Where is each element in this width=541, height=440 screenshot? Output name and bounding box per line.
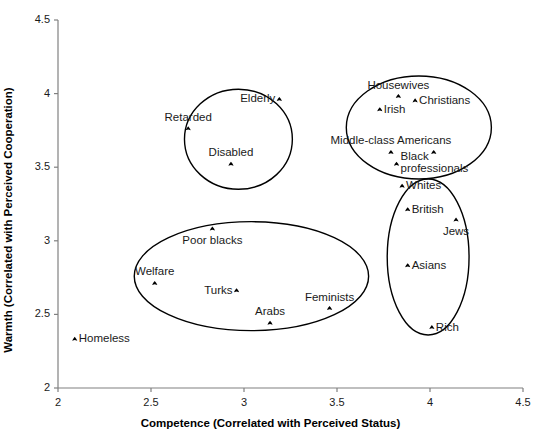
data-point-label: Welfare <box>55 265 255 277</box>
y-tick-label: 3 <box>10 235 50 246</box>
data-point-marker <box>228 162 233 166</box>
data-point-label: Homeless <box>79 332 279 344</box>
y-tick-label: 4.5 <box>10 14 50 25</box>
data-point-marker <box>394 162 399 166</box>
x-tick-label: 4.5 <box>498 397 541 408</box>
data-point-marker <box>453 218 458 222</box>
data-point-marker <box>267 321 272 325</box>
data-point-label: Elderly <box>75 92 275 104</box>
scatter-plot-figure: 22.533.544.5 22.533.544.5 ElderlyRetarde… <box>0 0 541 440</box>
y-tick-label: 2 <box>10 382 50 393</box>
data-point-label: British <box>412 203 541 215</box>
data-point-marker <box>405 263 410 267</box>
data-point-marker <box>405 207 410 211</box>
x-tick-label: 4 <box>405 397 455 408</box>
data-point-label: Arabs <box>170 305 370 317</box>
x-tick-label: 2 <box>33 397 83 408</box>
data-point-label: Feminists <box>230 291 430 303</box>
x-tick-label: 2.5 <box>126 397 176 408</box>
data-point-label: Turks <box>33 284 233 296</box>
data-markers <box>72 94 459 341</box>
data-point-marker <box>72 337 77 341</box>
data-point-label: Black professionals <box>401 150 485 174</box>
data-point-marker <box>429 325 434 329</box>
plot-canvas <box>0 0 541 440</box>
data-point-label: Retarded <box>88 111 288 123</box>
y-axis-title: Warmth (Correlated with Perceived Cooper… <box>0 0 16 440</box>
data-point-label: Whites <box>406 179 541 191</box>
data-point-label: Asians <box>412 259 541 271</box>
data-point-marker <box>388 150 393 154</box>
data-point-label: Irish <box>384 103 541 115</box>
data-point-marker <box>377 107 382 111</box>
data-point-label: Jews <box>356 225 541 237</box>
data-point-marker <box>277 97 282 101</box>
x-axis-title: Competence (Correlated with Perceived St… <box>0 418 541 430</box>
x-tick-label: 3 <box>219 397 269 408</box>
data-point-label: Middle-class Americans <box>291 134 491 146</box>
y-tick-label: 2.5 <box>10 308 50 319</box>
data-point-marker <box>396 94 401 98</box>
data-point-marker <box>413 98 418 102</box>
data-point-marker <box>400 184 405 188</box>
y-tick-label: 4 <box>10 88 50 99</box>
data-point-marker <box>210 226 215 230</box>
data-point-label: Housewives <box>298 79 498 91</box>
data-point-label: Poor blacks <box>112 234 312 246</box>
y-tick-label: 3.5 <box>10 161 50 172</box>
data-point-label: Rich <box>436 321 541 333</box>
x-tick-label: 3.5 <box>312 397 362 408</box>
data-point-label: Disabled <box>131 146 331 158</box>
